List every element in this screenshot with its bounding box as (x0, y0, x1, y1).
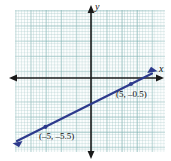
line-arrow-upper-right-icon (147, 67, 157, 73)
data-point-marker-right (129, 82, 133, 86)
x-axis-label: x (159, 64, 163, 74)
y-axis-arrow-up-icon (88, 5, 95, 13)
y-axis-label: y (95, 2, 99, 12)
coordinate-plane-figure: y x (5, –0.5) (–5, –5.5) (0, 0, 171, 161)
x-axis-arrow-left-icon (9, 75, 17, 82)
data-point-label-left: (–5, –5.5) (39, 132, 74, 141)
y-axis-arrow-down-icon (88, 151, 95, 159)
data-point-label-right: (5, –0.5) (116, 90, 147, 99)
y-axis (88, 5, 95, 159)
x-axis-arrow-right-icon (156, 75, 164, 82)
plotted-line (13, 67, 158, 147)
plot-svg (0, 0, 171, 161)
data-point-marker-left (43, 125, 47, 129)
line-arrow-lower-left-icon (13, 141, 23, 147)
